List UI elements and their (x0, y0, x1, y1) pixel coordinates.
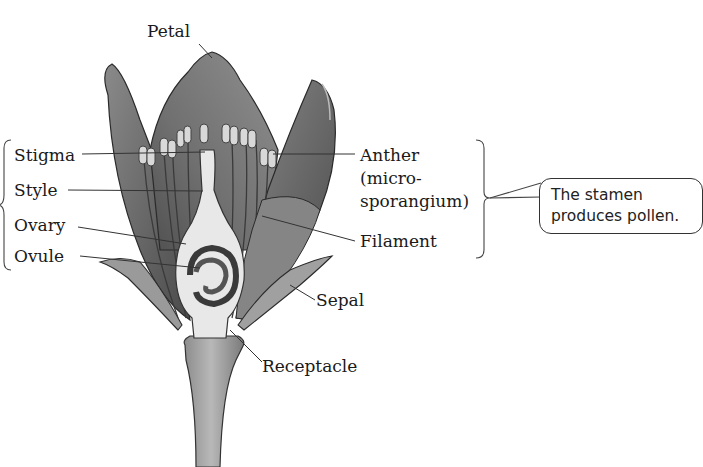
stamen-callout-box: The stamen produces pollen. (539, 178, 703, 234)
stem (184, 336, 244, 467)
label-ovary: Ovary (14, 215, 65, 236)
label-style: Style (14, 180, 58, 201)
label-anther-sub2: sporangium) (360, 191, 469, 212)
label-filament: Filament (360, 231, 437, 252)
label-receptacle: Receptacle (262, 356, 357, 377)
label-ovule: Ovule (14, 246, 64, 267)
right-bracket (476, 140, 541, 258)
callout-line-1: The stamen (551, 185, 702, 206)
flower-diagram: Petal Stigma Style Ovary Ovule Anther (m… (0, 0, 703, 467)
label-sepal: Sepal (316, 290, 364, 311)
label-anther: Anther (360, 145, 419, 166)
label-anther-sub1: (micro- (360, 168, 422, 189)
left-brackets (0, 140, 11, 270)
label-stigma: Stigma (14, 145, 75, 166)
label-petal: Petal (147, 21, 190, 42)
callout-line-2: produces pollen. (551, 206, 702, 227)
